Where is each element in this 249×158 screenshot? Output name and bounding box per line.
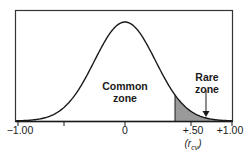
tick-label-pos1: +1.00	[217, 124, 244, 136]
arrow-head-icon	[203, 111, 210, 117]
normal-distribution-figure: −1.00 0 +.50 +1.00 (rcv) Common zone Rar…	[0, 0, 249, 158]
tick-label-zero: 0	[122, 124, 128, 136]
rare-zone-label: Rare zone	[195, 71, 219, 95]
tick-label-pos50: +.50	[183, 124, 204, 136]
tick-label-neg1: −1.00	[7, 124, 34, 136]
critical-value-label: (rcv)	[184, 138, 201, 151]
common-zone-label: Common zone	[102, 80, 148, 104]
plot-frame	[16, 11, 233, 122]
